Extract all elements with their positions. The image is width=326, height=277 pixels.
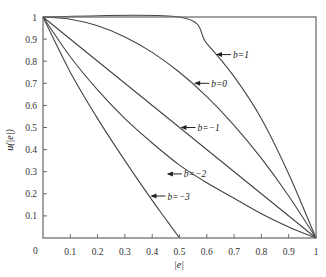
x-tick-label: 0.1 (64, 247, 76, 257)
arrow-head-icon (216, 52, 222, 57)
x-tick-label: 0.7 (228, 247, 240, 257)
curve-label: b=−1 (198, 123, 220, 133)
y-tick-label: 0.7 (25, 79, 37, 89)
y-tick-label: 0.3 (25, 167, 37, 177)
curve-annotation: b=−2 (167, 169, 207, 179)
curve-annotation: b=0 (194, 79, 227, 89)
curve-label: b=0 (211, 79, 227, 89)
x-tick-label: 0.2 (92, 247, 104, 257)
y-tick-label: 1 (32, 13, 37, 23)
x-tick-label: 1 (314, 247, 319, 257)
curve-label: b=1 (233, 50, 249, 60)
curve-annotation: b=−1 (181, 123, 220, 133)
x-tick-label: 0.9 (283, 247, 295, 257)
chart: 0.10.20.30.40.50.60.70.80.91 0.10.20.30.… (0, 0, 326, 277)
x-tick-label: 0.4 (146, 247, 158, 257)
x-tick-label: 0.6 (201, 247, 213, 257)
curve-b-neg3 (43, 17, 180, 238)
y-tick-label: 0.9 (25, 35, 37, 45)
curve-b-neg1 (43, 17, 316, 238)
curve-label: b=−3 (167, 192, 190, 202)
arrow-head-icon (167, 171, 173, 176)
curve-label: b=−2 (184, 169, 207, 179)
y-tick-label: 0.6 (25, 101, 37, 111)
arrow-head-icon (150, 194, 156, 199)
y-tick-label: 0.1 (25, 211, 37, 221)
curves-group (43, 15, 316, 238)
y-axis-label: u(|e|) (4, 129, 16, 151)
x-tick-label: 0.5 (174, 247, 186, 257)
origin-label: 0 (33, 246, 38, 256)
y-tick-label: 0.4 (25, 145, 37, 155)
y-tick-label: 0.2 (25, 189, 37, 199)
x-tick-label: 0.8 (255, 247, 267, 257)
y-tick-label: 0.5 (25, 123, 37, 133)
x-axis-label: |e| (174, 259, 184, 270)
y-tick-label: 0.8 (25, 57, 37, 67)
curve-annotation: b=−3 (150, 192, 190, 202)
x-tick-label: 0.3 (119, 247, 131, 257)
y-axis-ticks: 0.10.20.30.40.50.60.70.80.91 (25, 13, 47, 222)
curve-annotation: b=1 (216, 50, 249, 60)
